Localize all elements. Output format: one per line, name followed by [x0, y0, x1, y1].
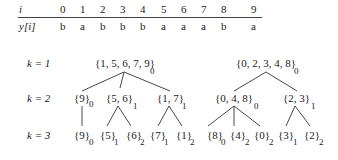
node-subscript: 0 — [150, 66, 155, 76]
node-subscript: 1 — [133, 101, 138, 111]
tree-node-k3: {9} — [74, 129, 90, 141]
node-subscript: 1 — [311, 101, 316, 111]
node-subscript: 0 — [89, 99, 94, 109]
node-subscript: 0 — [221, 137, 226, 147]
node-subscript: 2 — [190, 137, 195, 147]
node-subscript: 2 — [140, 137, 145, 147]
node-subscript: 2 — [319, 137, 324, 147]
tree-node-k1: {0, 2, 3, 4, 8} — [236, 57, 296, 69]
tree-node-k2: {0, 4, 8} — [215, 92, 253, 104]
node-subscript: 0 — [254, 101, 259, 111]
tree-node-k3: {2} — [304, 129, 320, 141]
node-subscript: 1 — [114, 137, 119, 147]
node-subscript: 0 — [294, 66, 299, 76]
node-subscript: 0 — [89, 137, 94, 147]
node-subscript: 1 — [164, 137, 169, 147]
tree-node-k2: {9} — [74, 92, 90, 104]
tree-node-k3: {3} — [278, 129, 294, 141]
tree-node-k2: {2, 3} — [283, 92, 310, 104]
node-subscript: 1 — [293, 137, 298, 147]
tree-node-k3: {0} — [254, 129, 270, 141]
tree-node-k2: {5, 6} — [106, 92, 133, 104]
tree-node-k2: {1, 7} — [157, 92, 184, 104]
node-subscript: 2 — [269, 137, 274, 147]
tree-node-k1: {1, 5, 6, 7, 9} — [95, 57, 155, 69]
node-subscript: 2 — [245, 137, 250, 147]
tree-node-k3: {4} — [230, 129, 246, 141]
node-subscript: 1 — [182, 101, 187, 111]
